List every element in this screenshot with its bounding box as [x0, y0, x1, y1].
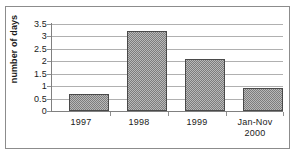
y-tick-label-2: 2: [7, 57, 47, 66]
y-tick-label-0.5: 0.5: [7, 95, 47, 104]
x-tick-mark-2: [168, 112, 169, 116]
bar-1999: [185, 59, 225, 111]
y-tick-label-3: 3: [7, 32, 47, 41]
gridline-1: [52, 86, 283, 87]
gridline-2.5: [52, 49, 283, 50]
gridline-2: [52, 61, 283, 62]
gridline-1.5: [52, 74, 283, 75]
x-tick-label-1997: 1997: [52, 117, 110, 128]
y-tick-label-1.5: 1.5: [7, 70, 47, 79]
chart-figure: number of days 3.5 3 2.5 2 1.5 1 0.5 0: [0, 0, 298, 157]
x-tick-label-jan-nov-2000-line1: Jan-Nov: [226, 117, 284, 128]
bar-1998: [127, 31, 167, 111]
x-tick-label-jan-nov-2000: Jan-Nov 2000: [226, 117, 284, 139]
y-tick-label-3.5: 3.5: [7, 20, 47, 29]
y-axis-tick-labels: 3.5 3 2.5 2 1.5 1 0.5 0: [4, 0, 47, 157]
bar-jan-nov-2000: [243, 88, 283, 111]
bar-1997: [69, 94, 109, 111]
gridline-3: [52, 36, 283, 37]
x-tick-label-1998: 1998: [110, 117, 168, 128]
y-tick-label-1: 1: [7, 82, 47, 91]
x-tick-label-1999: 1999: [168, 117, 226, 128]
y-tick-label-0: 0: [7, 107, 47, 116]
x-tick-label-jan-nov-2000-line2: 2000: [226, 128, 284, 139]
plot-area: [52, 24, 283, 111]
x-axis-line: [51, 111, 283, 112]
x-tick-mark-3: [226, 112, 227, 116]
gridline-3.5: [52, 24, 283, 25]
y-tick-label-2.5: 2.5: [7, 45, 47, 54]
x-tick-mark-1: [110, 112, 111, 116]
x-tick-mark-4: [283, 112, 284, 116]
